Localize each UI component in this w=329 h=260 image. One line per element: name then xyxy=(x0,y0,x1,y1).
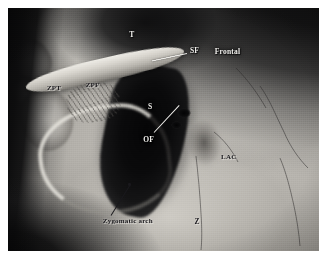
label-z: Z xyxy=(195,218,200,226)
label-zpt: ZPT xyxy=(47,85,61,92)
bone-suture-cracks xyxy=(8,8,319,251)
label-frontal: Frontal xyxy=(215,48,240,56)
crack-lower-right xyxy=(280,158,300,246)
label-sf: SF xyxy=(190,47,199,55)
specimen-photograph: TSFFrontalZPTZPFSOFLACZygomatic archZ xyxy=(8,8,319,251)
label-zpf: ZPF xyxy=(86,82,100,89)
zygomatic-arch-leader-endpoint-dot xyxy=(128,183,131,186)
label-t: T xyxy=(129,31,134,39)
crack-orbit-floor xyxy=(196,156,202,250)
crack-frontal-right xyxy=(260,86,308,168)
label-zygomatic-arch: Zygomatic arch xyxy=(103,218,153,225)
label-s: S xyxy=(148,103,152,111)
label-lac: LAC xyxy=(221,154,236,161)
figure-root: TSFFrontalZPTZPFSOFLACZygomatic archZ xyxy=(0,0,329,260)
label-of: OF xyxy=(143,136,154,144)
